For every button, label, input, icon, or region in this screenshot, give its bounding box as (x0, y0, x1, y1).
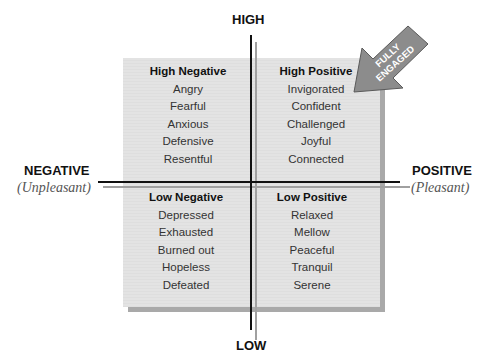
unpleasant-text: Unpleasant (22, 180, 87, 195)
axis-label-high: HIGH (232, 12, 265, 27)
list-item: Peaceful (248, 242, 376, 260)
list-item: Exhausted (122, 224, 250, 242)
list-item: Burned out (122, 242, 250, 260)
quadrant-title: Low Positive (248, 189, 376, 207)
axis-sublabel-pleasant: (Pleasant) (411, 180, 469, 196)
list-item: Challenged (252, 116, 380, 134)
axis-label-low: LOW (236, 338, 266, 353)
quadrant-low-positive: Low Positive Relaxed Mellow Peaceful Tra… (248, 189, 376, 294)
quadrant-title: High Negative (124, 63, 252, 81)
list-item: Confident (252, 98, 380, 116)
list-item: Serene (248, 277, 376, 295)
list-item: Angry (124, 81, 252, 99)
list-item: Fearful (124, 98, 252, 116)
horizontal-axis-shadow (103, 186, 410, 188)
list-item: Depressed (122, 207, 250, 225)
list-item: Hopeless (122, 259, 250, 277)
axis-label-positive: POSITIVE (412, 163, 472, 178)
horizontal-axis (98, 181, 400, 183)
fully-engaged-arrow-icon: FULLY ENGAGED (340, 20, 450, 100)
list-item: Defensive (124, 133, 252, 151)
list-item: Mellow (248, 224, 376, 242)
list-item: Defeated (122, 277, 250, 295)
axis-sublabel-unpleasant: (Unpleasant) (17, 180, 91, 196)
list-item: Tranquil (248, 259, 376, 277)
list-item: Joyful (252, 133, 380, 151)
quadrant-low-negative: Low Negative Depressed Exhausted Burned … (122, 189, 250, 294)
list-item: Relaxed (248, 207, 376, 225)
list-item: Resentful (124, 151, 252, 169)
quadrant-title: Low Negative (122, 189, 250, 207)
list-item: Connected (252, 151, 380, 169)
quadrant-high-negative: High Negative Angry Fearful Anxious Defe… (124, 63, 252, 168)
axis-label-negative: NEGATIVE (24, 163, 90, 178)
list-item: Anxious (124, 116, 252, 134)
pleasant-text: Pleasant (416, 180, 465, 195)
